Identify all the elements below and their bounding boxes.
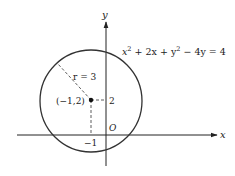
center-label: (−1,2): [56, 96, 85, 106]
center-point: [89, 98, 93, 102]
origin-label: O: [109, 123, 117, 133]
circle-diagram: x y O r = 3 (−1,2) 2 −1 x2 + 2x + y2 − 4…: [0, 0, 235, 176]
radius-line: [58, 64, 91, 100]
equation-label: x2 + 2x + y2 − 4y = 4: [122, 45, 226, 57]
x-axis-label: x: [220, 129, 226, 140]
y-axis-label: y: [101, 9, 108, 20]
radius-label: r = 3: [73, 72, 97, 82]
tick-y-2: 2: [109, 96, 115, 106]
tick-x-minus1: −1: [84, 138, 97, 148]
